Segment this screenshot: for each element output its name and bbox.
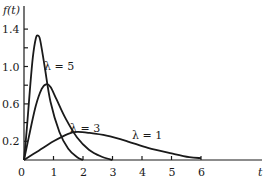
annotation-lambda-5: λ = 5	[44, 60, 74, 73]
x-tick-label: 5	[169, 166, 176, 179]
x-tick-label: 2	[80, 166, 87, 179]
y-tick-label: 0.2	[2, 135, 20, 148]
x-axis-label: t	[258, 166, 263, 179]
annotation-lambda-3: λ = 3	[70, 122, 100, 135]
x-tick-label: 3	[110, 166, 117, 179]
curves	[24, 35, 201, 160]
chart-canvas: 0.20.61.01.4 123456 f(t) t 0 λ = 5 λ = 3…	[0, 0, 271, 183]
x-tick-label: 6	[198, 166, 205, 179]
x-tick-label: 4	[139, 166, 146, 179]
x-tick-label: 1	[51, 166, 58, 179]
y-tick-label: 1.4	[2, 23, 20, 36]
y-tick-label: 0.6	[2, 98, 20, 111]
y-tick-label: 1.0	[2, 61, 20, 74]
annotation-lambda-1: λ = 1	[132, 129, 162, 142]
series-curve-2	[24, 132, 201, 160]
origin-label: 0	[18, 166, 25, 179]
y-axis-label: f(t)	[2, 4, 20, 17]
